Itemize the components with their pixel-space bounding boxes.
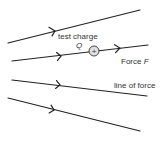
- line-of-force-label: line of force: [114, 81, 156, 90]
- field-line-4: [8, 98, 140, 131]
- test-charge: +: [89, 46, 99, 56]
- charge-symbol-label: Q: [76, 41, 82, 50]
- force-label: Force F: [121, 57, 150, 66]
- arrow-icon: [49, 26, 56, 36]
- test-charge-label: test charge: [58, 32, 98, 41]
- svg-text:+: +: [92, 47, 97, 56]
- field-lines-diagram: + test charge Q Force F line of force: [0, 0, 165, 152]
